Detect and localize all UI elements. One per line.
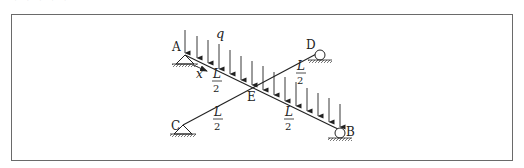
segment-length-ae: L 2 xyxy=(212,67,222,94)
svg-text:2: 2 xyxy=(213,83,219,94)
svg-text:L: L xyxy=(296,59,305,73)
load-label-q: q xyxy=(216,26,224,41)
diagram-canvas: · · · · · xyxy=(0,0,524,168)
svg-text:2: 2 xyxy=(285,121,291,132)
svg-text:2: 2 xyxy=(214,121,220,132)
label-a: A xyxy=(171,40,181,54)
svg-text:L: L xyxy=(284,105,293,119)
label-e: E xyxy=(247,90,256,104)
label-b: B xyxy=(346,125,355,139)
member-ab xyxy=(185,55,340,130)
label-d: D xyxy=(306,38,316,52)
svg-text:2: 2 xyxy=(297,75,303,86)
axis-label-x: x xyxy=(196,67,203,81)
svg-text:L: L xyxy=(213,105,222,119)
segment-length-eb: L 2 xyxy=(284,105,294,132)
svg-text:L: L xyxy=(212,67,221,81)
label-c: C xyxy=(171,119,180,133)
segment-length-ed: L 2 xyxy=(296,59,306,86)
segment-length-ce: L 2 xyxy=(213,105,223,132)
distributed-load-arrows xyxy=(185,30,340,127)
pin-support-a xyxy=(172,55,198,67)
beam-diagram: A B C D E q x L 2 L 2 L 2 L 2 xyxy=(0,0,524,168)
